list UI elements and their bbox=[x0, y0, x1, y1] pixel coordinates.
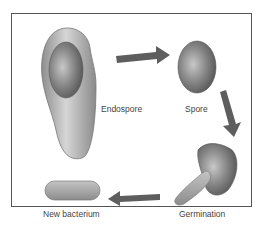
label-germination: Germination bbox=[179, 209, 225, 219]
cycle-illustration bbox=[0, 0, 266, 237]
arrow-right-icon bbox=[116, 46, 170, 64]
label-new-bacterium: New bacterium bbox=[43, 209, 100, 219]
arrow-left-icon bbox=[108, 191, 160, 206]
arrow-down-icon bbox=[220, 90, 241, 137]
endospore-figure bbox=[42, 28, 96, 159]
new-bacterium-figure bbox=[45, 181, 100, 200]
spore-figure bbox=[178, 41, 216, 93]
germination-figure bbox=[175, 144, 237, 205]
label-spore: Spore bbox=[185, 104, 208, 114]
label-endospore: Endospore bbox=[101, 104, 142, 114]
